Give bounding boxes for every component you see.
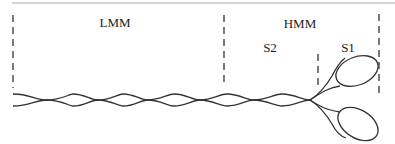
lower-head	[332, 100, 384, 144]
lower-head-neck	[310, 100, 346, 138]
upper-head-neck	[310, 58, 345, 100]
lower-head-neck-2	[310, 100, 340, 112]
label-s2: S2	[263, 40, 277, 55]
label-s1: S1	[341, 40, 355, 55]
myosin-diagram: LMM HMM S2 S1	[0, 0, 395, 144]
label-hmm: HMM	[284, 16, 317, 31]
label-lmm: LMM	[99, 15, 131, 30]
strand-a	[13, 94, 310, 100]
s1-heads	[310, 50, 384, 144]
coiled-coil-tail	[13, 94, 310, 106]
strand-b	[13, 100, 310, 106]
upper-head-neck-2	[310, 86, 340, 100]
